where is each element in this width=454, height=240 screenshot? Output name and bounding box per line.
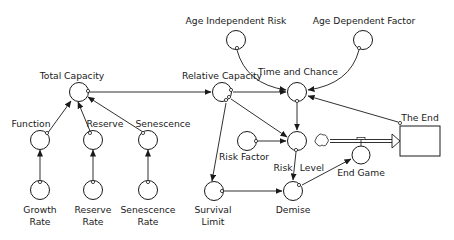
flow-valve-icon: [357, 138, 365, 140]
flow-pipe: [330, 134, 400, 148]
node-end-game[interactable]: [352, 146, 370, 164]
label-end-game: End Game: [337, 167, 385, 178]
flow-arrowhead-icon: [392, 134, 400, 148]
link-theend-timechance: [308, 96, 398, 122]
node-reserve[interactable]: [84, 131, 103, 150]
label-reserve: Reserve: [87, 118, 124, 129]
node-risk-level[interactable]: [288, 132, 307, 151]
label-growth-rate-2: Rate: [29, 216, 50, 227]
label-time-and-chance: Time and Chance: [257, 66, 338, 77]
label-risk-level-1: Risk: [273, 162, 293, 173]
label-risk-level-2: Level: [300, 162, 324, 173]
link-risklevel-demise: [293, 152, 296, 180]
label-senescence-rate-2: Rate: [137, 216, 158, 227]
label-reserve-rate-1: Reserve: [75, 204, 112, 215]
label-senescence: Senescence: [136, 118, 191, 129]
label-function: Function: [11, 118, 50, 129]
label-age-dependent-factor: Age Dependent Factor: [313, 15, 416, 26]
labels: Age Independent Risk Age Dependent Facto…: [11, 15, 438, 227]
label-the-end: The End: [400, 112, 438, 123]
label-reserve-rate-2: Rate: [82, 216, 103, 227]
node-time-and-chance[interactable]: [288, 83, 307, 102]
stock-flow-diagram: Age Independent Risk Age Dependent Facto…: [0, 0, 454, 240]
node-risk-factor[interactable]: [238, 132, 257, 151]
label-survival-limit-2: Limit: [202, 216, 225, 227]
label-age-independent-risk: Age Independent Risk: [186, 15, 288, 26]
label-total-capacity: Total Capacity: [39, 70, 105, 81]
label-growth-rate-1: Growth: [23, 204, 56, 215]
node-age-dependent-factor[interactable]: [354, 31, 373, 50]
label-demise: Demise: [276, 204, 311, 215]
link-relative-survival: [212, 103, 226, 181]
link-function-total: [47, 101, 71, 134]
link-relative-risklevel: [231, 99, 287, 137]
stock-the-end[interactable]: [400, 126, 440, 156]
node-total-capacity[interactable]: [70, 83, 89, 102]
label-survival-limit-1: Survival: [194, 204, 231, 215]
cloud-source-icon: [315, 134, 328, 146]
label-risk-factor: Risk Factor: [219, 151, 269, 162]
label-relative-capacity: Relative Capacity: [182, 70, 263, 81]
label-senescence-rate-1: Senescence: [121, 204, 176, 215]
